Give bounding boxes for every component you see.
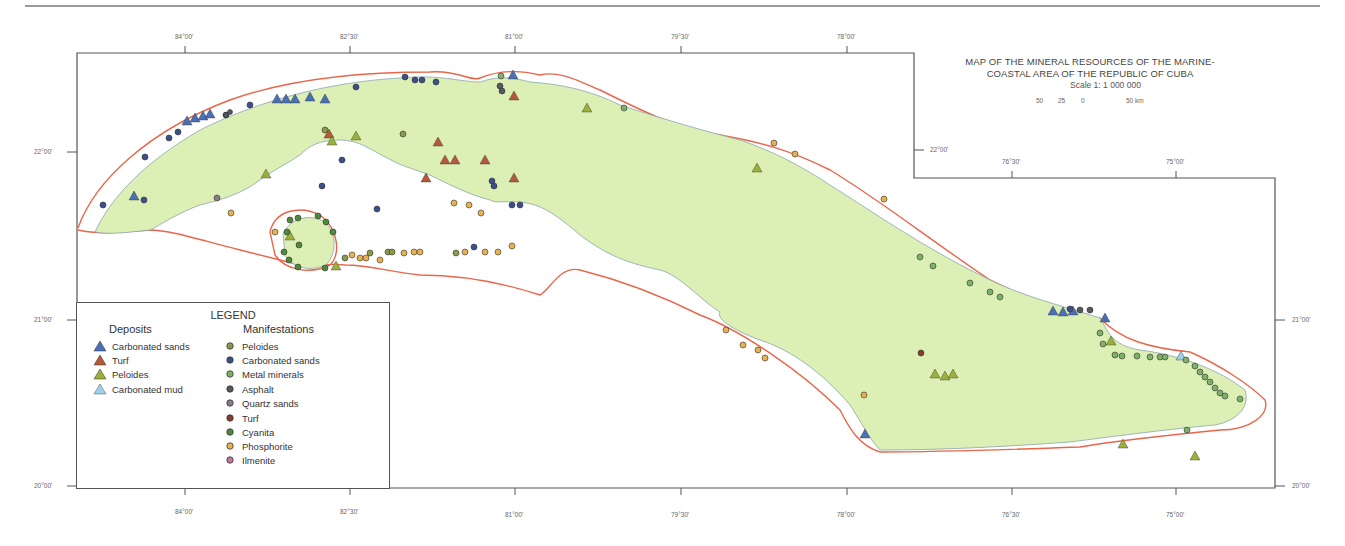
triangle-icon (93, 383, 107, 395)
legend-deposit-peloides: Peloides (93, 368, 148, 380)
legend-deposit-carbonated-sands: Carbonated sands (93, 340, 190, 352)
legend-label: Carbonated sands (242, 355, 320, 366)
bottom-lon-label: 79°30' (671, 511, 689, 518)
legend-manifestations-title: Manifestations (243, 323, 314, 335)
scale-tick-50: 50 (1036, 97, 1043, 104)
circle-icon (223, 383, 237, 395)
legend-label: Peloides (112, 369, 148, 380)
left-lat-label: 22°00' (34, 148, 52, 155)
legend-label: Turf (242, 413, 259, 424)
bottom-lon-label: 82°30' (340, 508, 358, 515)
scale-tick-25: 25 (1058, 97, 1065, 104)
left-lat-label: 20°00' (34, 482, 52, 489)
top-right-lon-label: 76°30' (1002, 158, 1020, 165)
bottom-lon-label: 78°00' (837, 511, 855, 518)
right-lat-label: 21°00' (1292, 316, 1310, 323)
top-right-lon-label: 75°00' (1166, 158, 1184, 165)
bottom-lon-label: 76°30' (1002, 511, 1020, 518)
scale-tick-0: 0 (1081, 97, 1085, 104)
legend-label: Carbonated mud (112, 384, 183, 395)
legend-label: Cyanita (242, 427, 274, 438)
legend-label: Ilmenite (242, 455, 275, 466)
triangle-icon (93, 368, 107, 380)
circle-icon (223, 412, 237, 424)
legend-title: LEGEND (77, 309, 389, 321)
circle-icon (223, 454, 237, 466)
legend-deposit-carbonated-mud: Carbonated mud (93, 383, 183, 395)
circle-icon (223, 368, 237, 380)
circle-icon (223, 340, 237, 352)
legend-manif-peloides: Peloides (223, 340, 278, 352)
right-lat-label: 22°00' (930, 146, 948, 153)
top-lon-label: 81°00' (505, 33, 523, 40)
map-title-line2: COASTAL AREA OF THE REPUBLIC OF CUBA (940, 68, 1240, 80)
legend-manif-phosphorite: Phosphorite (223, 440, 293, 452)
legend-manif-ilmenite: Ilmenite (223, 454, 275, 466)
circle-icon (223, 440, 237, 452)
legend-box: LEGEND Deposits Manifestations Carbonate… (76, 302, 390, 489)
left-lat-label: 21°00' (34, 316, 52, 323)
legend-manif-asphalt: Asphalt (223, 383, 274, 395)
legend-label: Turf (112, 355, 129, 366)
legend-manif-quartz-sands: Quartz sands (223, 397, 299, 409)
circle-icon (223, 397, 237, 409)
legend-manif-turf: Turf (223, 412, 259, 424)
top-lon-label: 82°30' (340, 33, 358, 40)
scale-label: Scale 1: 1 000 000 (1070, 80, 1141, 90)
legend-manif-cyanita: Cyanita (223, 426, 274, 438)
right-lat-label: 20°00' (1292, 482, 1310, 489)
legend-label: Peloides (242, 341, 278, 352)
legend-manif-metal-minerals: Metal minerals (223, 368, 304, 380)
map-title-line1: MAP OF THE MINERAL RESOURCES OF THE MARI… (940, 56, 1240, 68)
legend-label: Phosphorite (242, 441, 293, 452)
map-title: MAP OF THE MINERAL RESOURCES OF THE MARI… (940, 56, 1240, 80)
legend-label: Quartz sands (242, 398, 299, 409)
bottom-lon-label: 81°00' (505, 511, 523, 518)
bottom-lon-label: 75°00' (1166, 511, 1184, 518)
circle-icon (223, 354, 237, 366)
scale-tick-50km: 50 km (1126, 97, 1144, 104)
legend-manif-carbonated-sands: Carbonated sands (223, 354, 320, 366)
circle-icon (223, 426, 237, 438)
top-lon-label: 84°00' (175, 33, 193, 40)
bottom-lon-label: 84°00' (175, 508, 193, 515)
legend-deposits-title: Deposits (109, 323, 152, 335)
triangle-icon (93, 340, 107, 352)
triangle-icon (93, 354, 107, 366)
top-lon-label: 79°30' (671, 33, 689, 40)
top-lon-label: 78°00' (837, 33, 855, 40)
legend-label: Asphalt (242, 384, 274, 395)
legend-label: Metal minerals (242, 369, 304, 380)
legend-label: Carbonated sands (112, 341, 190, 352)
legend-deposit-turf: Turf (93, 354, 129, 366)
